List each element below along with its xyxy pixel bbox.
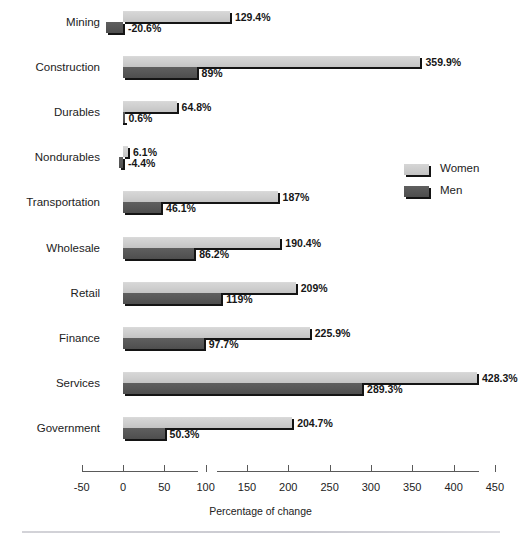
legend-label-men: Men xyxy=(440,184,462,196)
value-label-men-wholesale: 86.2% xyxy=(199,249,229,260)
bar-women-wholesale xyxy=(123,237,280,248)
bar-women-construction xyxy=(123,56,420,67)
value-label-women-construction: 359.9% xyxy=(425,57,461,68)
value-label-women-durables: 64.8% xyxy=(182,102,212,113)
x-tick-label: 200 xyxy=(268,481,308,493)
bar-shadow xyxy=(292,419,294,430)
value-label-men-services: 289.3% xyxy=(367,384,403,395)
bar-men-transportation xyxy=(123,202,161,213)
legend-swatch-men-shadow xyxy=(406,197,431,199)
x-tick xyxy=(454,465,455,472)
value-label-women-mining: 129.4% xyxy=(235,12,271,23)
x-axis-line xyxy=(82,471,479,472)
value-label-women-finance: 225.9% xyxy=(315,328,351,339)
x-tick xyxy=(247,465,248,472)
value-label-women-transportation: 187% xyxy=(283,192,310,203)
value-label-men-finance: 97.7% xyxy=(209,339,239,350)
value-label-men-mining: -20.6% xyxy=(128,23,161,34)
bar-men-finance xyxy=(123,338,204,349)
bar-shadow xyxy=(221,295,223,306)
bar-shadow xyxy=(125,213,163,215)
bar-men-construction xyxy=(123,67,197,78)
legend-swatch-men-shadow-right xyxy=(429,188,431,199)
x-tick-label: 150 xyxy=(227,481,267,493)
bar-men-government xyxy=(123,428,165,439)
x-tick-label: 250 xyxy=(310,481,350,493)
legend-swatch-women-shadow-right xyxy=(429,166,431,177)
legend-swatch-men xyxy=(404,186,429,197)
bar-men-wholesale xyxy=(123,248,194,259)
value-label-men-retail: 119% xyxy=(226,294,252,305)
bar-shadow xyxy=(123,159,125,170)
bar-men-durables xyxy=(123,112,125,123)
bar-shadow xyxy=(177,103,179,114)
legend-swatch-women xyxy=(404,164,429,175)
value-label-men-government: 50.3% xyxy=(170,429,200,440)
x-tick-label: 50 xyxy=(144,481,184,493)
x-tick-label: 350 xyxy=(392,481,432,493)
x-tick-label: 450 xyxy=(475,481,515,493)
category-label-wholesale: Wholesale xyxy=(4,242,100,254)
x-tick xyxy=(412,465,413,472)
x-tick-label: -50 xyxy=(62,481,102,493)
category-label-mining: Mining xyxy=(4,16,100,28)
bar-women-services xyxy=(123,372,477,383)
bar-shadow xyxy=(296,284,298,295)
bar-women-finance xyxy=(123,327,310,338)
x-tick xyxy=(288,465,289,472)
value-label-men-durables: 0.6% xyxy=(128,113,152,124)
bar-shadow xyxy=(362,385,364,396)
category-label-durables: Durables xyxy=(4,106,100,118)
x-tick xyxy=(82,465,83,472)
bar-shadow xyxy=(161,204,163,215)
category-label-construction: Construction xyxy=(4,61,100,73)
x-tick xyxy=(164,465,165,472)
bar-shadow xyxy=(125,439,167,441)
bar-shadow xyxy=(165,430,167,441)
value-label-women-retail: 209% xyxy=(301,283,328,294)
value-label-women-government: 204.7% xyxy=(297,418,333,429)
category-label-services: Services xyxy=(4,377,100,389)
category-label-retail: Retail xyxy=(4,287,100,299)
x-axis-title: Percentage of change xyxy=(0,505,521,517)
x-tick-label: 400 xyxy=(434,481,474,493)
bar-shadow xyxy=(204,340,206,351)
x-tick xyxy=(123,465,124,472)
bar-shadow xyxy=(125,78,199,80)
bar-shadow xyxy=(125,304,223,306)
bar-shadow xyxy=(280,239,282,250)
bar-shadow xyxy=(194,250,196,261)
bar-women-government xyxy=(123,417,292,428)
bar-shadow xyxy=(420,58,422,69)
bar-men-nondurables xyxy=(119,157,123,168)
value-label-men-construction: 89% xyxy=(202,68,223,79)
bar-men-mining xyxy=(106,22,123,33)
legend-label-women: Women xyxy=(440,162,479,174)
bar-women-durables xyxy=(123,101,177,112)
legend-swatch-women-shadow xyxy=(406,175,431,177)
x-tick-label: 300 xyxy=(351,481,391,493)
bar-shadow xyxy=(125,349,206,351)
x-tick xyxy=(371,465,372,472)
bar-shadow xyxy=(278,193,280,204)
bar-shadow xyxy=(477,374,479,385)
value-label-women-wholesale: 190.4% xyxy=(285,238,321,249)
category-label-transportation: Transportation xyxy=(4,196,100,208)
bar-shadow xyxy=(310,329,312,340)
bar-men-services xyxy=(123,383,362,394)
chart-figure: Mining129.4%-20.6%Construction359.9%89%D… xyxy=(0,0,521,543)
x-tick xyxy=(330,465,331,472)
bar-men-retail xyxy=(123,293,221,304)
bar-women-retail xyxy=(123,282,296,293)
value-label-men-nondurables: -4.4% xyxy=(128,158,155,169)
category-label-nondurables: Nondurables xyxy=(4,151,100,163)
value-label-women-services: 428.3% xyxy=(482,373,518,384)
bar-women-mining xyxy=(123,11,230,22)
plot-area: Mining129.4%-20.6%Construction359.9%89%D… xyxy=(0,0,521,466)
bar-shadow xyxy=(197,69,199,80)
bar-shadow xyxy=(125,259,196,261)
category-label-government: Government xyxy=(4,422,100,434)
value-label-men-transportation: 46.1% xyxy=(166,203,196,214)
x-axis-scan-gap xyxy=(198,469,217,473)
bar-shadow xyxy=(125,394,364,396)
